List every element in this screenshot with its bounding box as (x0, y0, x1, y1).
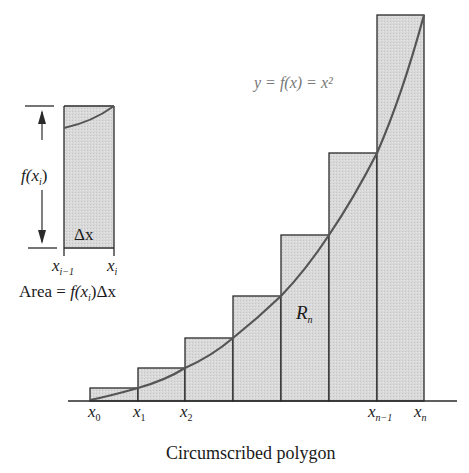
circumscribed-rectangles (90, 15, 424, 401)
bar-6 (329, 153, 377, 401)
riemann-sum-figure (0, 0, 469, 473)
inset-width-label: Δx (74, 225, 93, 245)
inset-tick-left: xi−1 (52, 256, 74, 277)
region-label: Rn (296, 302, 313, 325)
arrow-down-icon (38, 230, 46, 244)
arrow-up-icon (38, 110, 46, 124)
tick-x0: x0 (88, 402, 101, 423)
function-label: y = f(x) = x² (254, 74, 333, 92)
tick-x2: x2 (180, 402, 193, 423)
tick-xn: xn (414, 402, 427, 423)
area-formula: Area = f(xi)Δx (19, 282, 116, 303)
bar-7 (377, 15, 424, 401)
bar-4 (233, 296, 281, 401)
inset-tick-right: xi (107, 256, 117, 277)
inset-height-label: f(xi) (20, 166, 48, 187)
bar-3 (185, 338, 233, 401)
tick-x1: x1 (133, 402, 146, 423)
figure-caption: Circumscribed polygon (166, 443, 335, 464)
tick-xn-minus-1: xn−1 (368, 402, 392, 423)
